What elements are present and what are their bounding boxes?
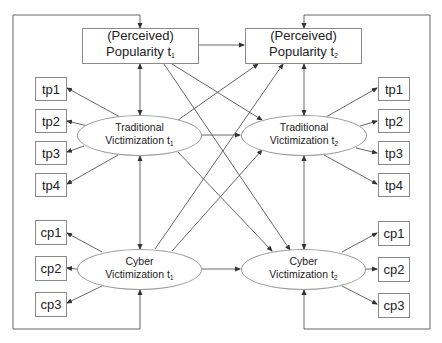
popularity-t1-line2: Popularity t1 [106,44,175,64]
ellipse-label: Traditional [280,121,329,134]
indicator-right-tp2: tp2 [378,109,410,133]
traditional-victimization-t1-ellipse: Traditional Victimization t1 [77,115,202,156]
indicator-left-tp3: tp3 [35,141,67,165]
popularity-t1-line1: (Perceived) [107,28,173,44]
ellipse-label: Cyber [289,255,317,268]
indicator-right-cp3: cp3 [378,293,410,318]
ellipse-label: Victimization t1 [105,268,174,284]
indicator-left-tp4: tp4 [35,173,67,197]
indicator-right-cp2: cp2 [378,257,410,282]
indicator-left-cp1: cp1 [35,220,67,245]
ellipse-label: Victimization t2 [269,268,338,284]
popularity-t2-box: (Perceived) Popularity t2 [245,28,362,64]
indicator-left-cp3: cp3 [35,292,67,317]
indicator-right-cp1: cp1 [378,221,410,246]
indicator-left-cp2: cp2 [35,256,67,281]
indicator-left-tp2: tp2 [35,109,67,133]
popularity-t1-box: (Perceived) Popularity t1 [82,28,199,64]
ellipse-label: Cyber [125,255,153,268]
ellipse-label: Victimization t1 [105,134,174,150]
indicator-right-tp4: tp4 [378,173,410,197]
path-diagram: (Perceived) Popularity t1 (Perceived) Po… [0,0,442,343]
ellipse-label: Victimization t2 [270,134,339,150]
ellipse-label: Traditional [115,121,164,134]
popularity-t2-line2: Popularity t2 [269,44,338,64]
popularity-t2-line1: (Perceived) [270,28,336,44]
cyber-victimization-t2-ellipse: Cyber Victimization t2 [241,249,366,290]
cyber-victimization-t1-ellipse: Cyber Victimization t1 [77,249,202,290]
traditional-victimization-t2-ellipse: Traditional Victimization t2 [241,115,367,156]
indicator-left-tp1: tp1 [35,77,67,101]
indicator-right-tp1: tp1 [378,77,410,101]
indicator-right-tp3: tp3 [378,141,410,165]
